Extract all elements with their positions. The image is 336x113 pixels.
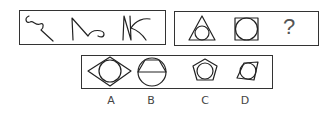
option-a-figure[interactable]: [88, 57, 131, 86]
option-d-figure[interactable]: [237, 62, 258, 80]
option-c-label[interactable]: C: [198, 94, 212, 107]
figure-n-arc: [123, 16, 150, 40]
figure-curly-hook: [26, 16, 53, 41]
option-b-figure[interactable]: [138, 58, 166, 86]
figure-square-circle: [235, 18, 258, 40]
figure-zigzag-curl: [72, 18, 104, 40]
option-c-figure[interactable]: [193, 59, 217, 80]
option-a-label[interactable]: A: [104, 94, 118, 107]
question-mark: ?: [283, 14, 295, 40]
figure-triangle-circle: [189, 16, 215, 40]
option-d-label[interactable]: D: [238, 94, 252, 107]
option-b-label[interactable]: B: [144, 94, 158, 107]
